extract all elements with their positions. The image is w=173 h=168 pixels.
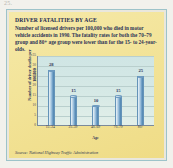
x-axis-tick-labels: 15–2425–3940–6970–7980+ bbox=[37, 126, 154, 133]
bar-slot: 10 bbox=[86, 56, 105, 125]
source-note: Source: National Highway Traffic Adminis… bbox=[15, 151, 98, 155]
y-axis-tick: 10 bbox=[33, 105, 36, 108]
bar-top-cap bbox=[70, 95, 77, 97]
x-axis-title: Age bbox=[37, 137, 154, 141]
bar-value-label: 10 bbox=[94, 99, 99, 104]
bar-top-cap bbox=[48, 70, 55, 72]
bar-top-cap bbox=[137, 76, 144, 78]
y-axis-tick: 5 bbox=[34, 115, 36, 118]
plot-background: 2815101525 bbox=[37, 56, 154, 126]
x-axis-tick-label: 40–69 bbox=[86, 126, 105, 133]
bar-top-cap bbox=[92, 105, 99, 107]
bar: 25 bbox=[137, 76, 144, 125]
y-axis-tick: 35 bbox=[33, 55, 36, 58]
bar: 15 bbox=[115, 96, 122, 126]
y-axis-tick: 0 bbox=[34, 125, 36, 128]
plot-area: 05101520253035 2815101525 bbox=[37, 56, 154, 126]
bar-slot: 25 bbox=[131, 56, 150, 125]
y-axis-tick: 30 bbox=[33, 65, 36, 68]
x-axis-tick-label: 80+ bbox=[131, 126, 150, 133]
x-axis-tick-label: 70–79 bbox=[108, 126, 127, 133]
bar-value-label: 15 bbox=[71, 89, 76, 94]
bar-top-cap bbox=[115, 95, 122, 97]
y-axis-tick: 20 bbox=[33, 85, 36, 88]
chart: Number of driver deaths per 100,000 0510… bbox=[15, 56, 158, 140]
bar-value-label: 15 bbox=[116, 89, 121, 94]
bar: 10 bbox=[92, 106, 99, 126]
bar: 15 bbox=[70, 96, 77, 126]
figure-inner: DRIVER FATALITIES BY AGE Number of licen… bbox=[9, 12, 164, 158]
bar-value-label: 25 bbox=[138, 69, 143, 74]
bar-slot: 15 bbox=[109, 56, 128, 125]
y-axis-tick: 25 bbox=[33, 75, 36, 78]
bar-value-label: 28 bbox=[49, 63, 54, 68]
bar: 28 bbox=[48, 70, 55, 125]
x-axis-tick-label: 25–39 bbox=[63, 126, 82, 133]
figure-box: DRIVER FATALITIES BY AGE Number of licen… bbox=[6, 9, 167, 161]
bar-slot: 15 bbox=[64, 56, 83, 125]
x-axis-tick-label: 15–24 bbox=[41, 126, 60, 133]
figure-title: DRIVER FATALITIES BY AGE bbox=[15, 17, 158, 24]
y-axis-tick: 15 bbox=[33, 95, 36, 98]
bar-slot: 28 bbox=[42, 56, 61, 125]
y-axis-ticks: 05101520253035 bbox=[30, 56, 37, 126]
bar-series: 2815101525 bbox=[38, 56, 154, 125]
page-number: 25. bbox=[4, 0, 12, 6]
